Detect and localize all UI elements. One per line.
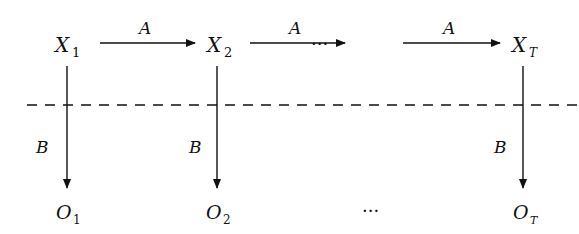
observation-o2: O 2 <box>206 201 231 227</box>
emission-arrow-2: B <box>188 66 217 188</box>
emission-arrow-1: B <box>35 66 67 188</box>
state-x2: X 2 <box>205 33 232 60</box>
svg-text:B: B <box>35 137 49 157</box>
transition-arrow-1: A <box>100 18 195 43</box>
ellipsis-bottom: ··· <box>362 200 379 221</box>
observation-ot: O T <box>513 201 539 227</box>
state-x1: X 1 <box>53 33 80 60</box>
transition-arrow-2: A <box>250 18 345 43</box>
svg-text:2: 2 <box>224 45 232 60</box>
observation-o1: O 1 <box>56 201 81 227</box>
state-xt: X T <box>510 33 538 60</box>
svg-text:B: B <box>188 137 202 157</box>
emission-arrow-3: B <box>493 66 523 188</box>
svg-text:2: 2 <box>223 213 231 227</box>
svg-text:B: B <box>493 137 507 157</box>
hmm-diagram: X 1 X 2 ··· X T A A A B B B O 1 O <box>0 0 579 234</box>
svg-text:O: O <box>56 201 72 223</box>
svg-text:X: X <box>53 33 70 57</box>
svg-text:A: A <box>287 18 301 38</box>
svg-text:T: T <box>529 46 538 60</box>
svg-text:1: 1 <box>72 45 80 60</box>
svg-text:A: A <box>441 18 455 38</box>
transition-arrow-3: A <box>403 18 500 43</box>
svg-text:X: X <box>205 33 222 57</box>
svg-text:O: O <box>513 201 529 223</box>
svg-text:X: X <box>510 33 527 57</box>
svg-text:A: A <box>137 18 151 38</box>
svg-text:T: T <box>530 214 539 227</box>
svg-text:1: 1 <box>73 213 81 227</box>
svg-text:O: O <box>206 201 222 223</box>
